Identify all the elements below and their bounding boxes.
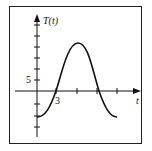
y-axis-arrow-icon [34, 14, 40, 22]
x-tick-label: 3 [55, 95, 60, 106]
temperature-chart: 5 3 T(t) t [0, 0, 152, 151]
temperature-curve [37, 43, 117, 117]
x-axis-arrow-icon [133, 88, 141, 94]
x-axis-label: t [136, 95, 139, 106]
y-tick-label: 5 [26, 74, 31, 85]
y-axis-label: T(t) [43, 15, 59, 27]
